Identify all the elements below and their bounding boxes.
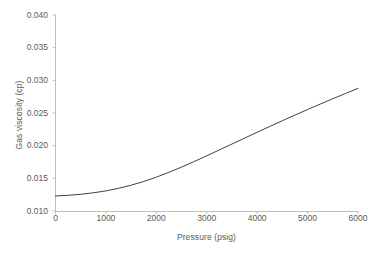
y-axis-title: Gas viscosity (cp) xyxy=(14,50,26,180)
series-line xyxy=(56,88,359,196)
axis-lines xyxy=(55,15,358,212)
gas-viscosity-vs-pressure-chart: 0.0100.0150.0200.0250.0300.0350.040 0100… xyxy=(0,0,374,253)
data-series-group xyxy=(56,88,359,196)
plot-area xyxy=(0,0,374,253)
x-axis-title: Pressure (psig) xyxy=(55,232,358,242)
